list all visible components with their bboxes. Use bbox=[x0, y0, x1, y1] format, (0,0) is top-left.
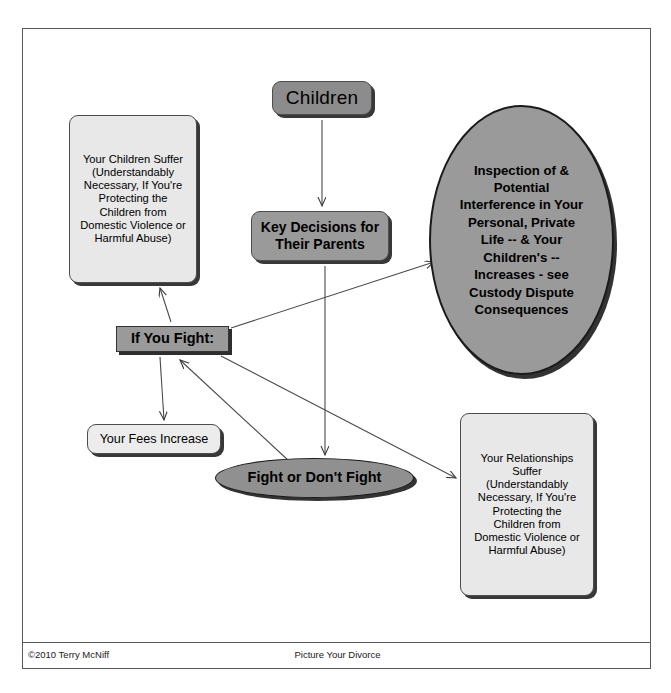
node-your-fees-increase-label: Your Fees Increase bbox=[100, 432, 209, 447]
node-your-children-suffer-label: Your Children Suffer (Understandably Nec… bbox=[80, 153, 186, 246]
node-key-decisions-label: Key Decisions for Their Parents bbox=[261, 219, 379, 252]
node-children-label: Children bbox=[286, 87, 358, 109]
diagram-page: Children Your Children Suffer (Understan… bbox=[0, 0, 671, 693]
node-your-relationships-suffer-label: Your Relationships Suffer (Understandabl… bbox=[474, 452, 580, 558]
node-inspection-label: Inspection of & Potential Interference i… bbox=[460, 162, 583, 319]
footer-bar: ©2010 Terry McNiff Picture Your Divorce bbox=[22, 643, 651, 669]
node-if-you-fight[interactable]: If You Fight: bbox=[116, 326, 229, 352]
node-fight-or-dont-fight-label: Fight or Don't Fight bbox=[248, 469, 382, 486]
node-fight-or-dont-fight[interactable]: Fight or Don't Fight bbox=[215, 458, 414, 498]
node-your-relationships-suffer[interactable]: Your Relationships Suffer (Understandabl… bbox=[460, 413, 594, 596]
document-title-footer: Picture Your Divorce bbox=[23, 649, 652, 660]
node-children[interactable]: Children bbox=[272, 81, 372, 115]
node-inspection-and-interference[interactable]: Inspection of & Potential Interference i… bbox=[429, 105, 614, 375]
node-your-fees-increase[interactable]: Your Fees Increase bbox=[87, 424, 221, 454]
node-if-you-fight-label: If You Fight: bbox=[131, 330, 214, 347]
node-your-children-suffer[interactable]: Your Children Suffer (Understandably Nec… bbox=[69, 115, 197, 283]
node-key-decisions-for-their-parents[interactable]: Key Decisions for Their Parents bbox=[251, 211, 389, 261]
